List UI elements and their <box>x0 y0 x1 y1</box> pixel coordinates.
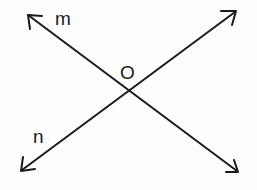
line-m <box>28 15 237 171</box>
label-line-m: m <box>55 9 71 28</box>
label-intersection-o: O <box>120 63 135 82</box>
intersecting-lines-diagram: m O n <box>0 0 257 190</box>
label-line-n: n <box>33 127 44 146</box>
lines-canvas <box>0 0 257 190</box>
